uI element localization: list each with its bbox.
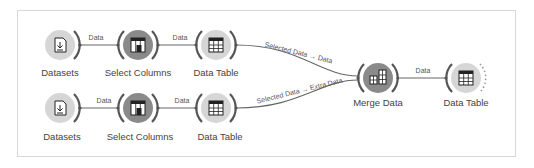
link-select1-table1[interactable]: Data xyxy=(158,34,196,45)
svg-text:Data: Data xyxy=(416,67,431,74)
link-datasets1-select1[interactable]: Data xyxy=(78,34,118,45)
node-merge-data[interactable] xyxy=(356,63,399,93)
node-datasets-1[interactable] xyxy=(45,30,82,60)
select-columns-icon xyxy=(131,101,145,115)
node-datasets-2[interactable] xyxy=(45,93,82,123)
svg-text:Selected Data → Extra Data: Selected Data → Extra Data xyxy=(256,77,343,105)
node-select-columns-1[interactable] xyxy=(116,30,159,60)
table-icon xyxy=(209,38,223,52)
node-label: Datasets xyxy=(43,131,81,142)
svg-text:Data: Data xyxy=(175,97,190,104)
link-datasets2-select2[interactable]: Data xyxy=(78,97,118,108)
node-label: Select Columns xyxy=(105,67,172,78)
link-table2-merge[interactable]: Selected Data → Extra Data xyxy=(236,77,358,108)
file-download-icon xyxy=(55,101,66,115)
table-icon xyxy=(209,101,223,115)
node-label: Select Columns xyxy=(107,131,174,142)
svg-text:Data: Data xyxy=(89,34,104,41)
node-label: Data Table xyxy=(193,67,238,78)
select-columns-icon xyxy=(131,38,145,52)
svg-text:Data: Data xyxy=(173,34,188,41)
link-merge-table3[interactable]: Data xyxy=(400,67,446,78)
table-icon xyxy=(459,71,473,85)
node-label: Datasets xyxy=(41,67,79,78)
node-select-columns-2[interactable] xyxy=(116,93,159,123)
svg-text:Selected Data → Data: Selected Data → Data xyxy=(264,41,333,65)
svg-text:Data: Data xyxy=(97,97,112,104)
node-label: Merge Data xyxy=(353,97,403,108)
link-table1-merge[interactable]: Selected Data → Data xyxy=(236,41,358,76)
file-download-icon xyxy=(55,38,66,52)
node-data-table-3[interactable] xyxy=(444,63,485,93)
node-data-table-2[interactable] xyxy=(194,93,237,123)
node-data-table-1[interactable] xyxy=(194,30,237,60)
link-select2-table2[interactable]: Data xyxy=(158,97,196,108)
node-label: Data Table xyxy=(197,131,242,142)
node-label: Data Table xyxy=(443,97,488,108)
